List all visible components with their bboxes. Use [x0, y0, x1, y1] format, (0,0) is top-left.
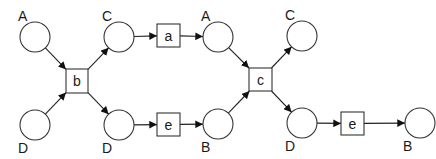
transition-label: e [349, 116, 357, 132]
place-circle [287, 21, 317, 51]
place-label: A [18, 8, 28, 24]
place-p3: C [102, 8, 134, 52]
place-p9: B [403, 108, 435, 154]
place-circle [203, 22, 233, 52]
transition-label: c [257, 72, 264, 88]
place-circle [20, 22, 50, 52]
place-label: D [285, 138, 295, 154]
transition-t1: b [66, 69, 88, 93]
place-p2: D [18, 110, 50, 156]
place-label: D [18, 140, 28, 156]
arc-t1-p3 [88, 48, 109, 70]
place-p5: A [201, 8, 233, 52]
arc-p2-t1 [45, 93, 66, 115]
transition-label: e [165, 117, 173, 133]
place-p1: A [18, 8, 50, 52]
arc-t2-p5 [180, 36, 203, 37]
arc-p5-t4 [229, 48, 249, 68]
arc-p6-t4 [228, 91, 249, 113]
place-label: B [403, 138, 412, 154]
arc-t4-p7 [271, 47, 291, 68]
place-p4: D [102, 110, 134, 156]
transition-label: a [165, 28, 173, 44]
place-label: D [102, 140, 112, 156]
petri-net-diagram: ADCDABCDB baece [0, 0, 436, 159]
place-label: A [201, 8, 211, 24]
place-p6: B [201, 109, 233, 155]
place-circle [287, 108, 317, 138]
place-circle [203, 109, 233, 139]
arc-t1-p4 [88, 93, 109, 115]
place-label: C [285, 7, 295, 23]
arc-p1-t1 [45, 48, 66, 70]
place-label: B [201, 139, 210, 155]
transition-t5: e [341, 112, 364, 135]
diagram-svg: ADCDABCDB baece [0, 0, 436, 159]
place-circle [104, 22, 134, 52]
transition-t2: a [157, 24, 180, 47]
transition-t3: e [157, 113, 180, 136]
transition-label: b [73, 73, 81, 89]
place-label: C [102, 8, 112, 24]
place-circle [20, 110, 50, 140]
transition-t4: c [249, 68, 272, 91]
place-p7: C [285, 7, 317, 51]
place-circle [405, 108, 435, 138]
place-p8: D [285, 108, 317, 154]
arc-p3-t2 [134, 36, 157, 37]
arc-t4-p8 [271, 91, 291, 112]
place-circle [104, 110, 134, 140]
